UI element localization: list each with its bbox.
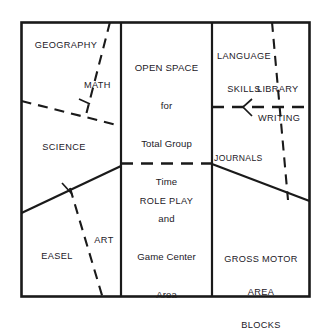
zone-label-art: ART	[88, 235, 120, 246]
open-space-line-2: for	[121, 100, 212, 113]
zone-label-geography: GEOGRAPHY	[23, 40, 109, 51]
zone-label-science: SCIENCE	[24, 142, 104, 153]
open-space-line-7: Area	[121, 289, 212, 302]
zone-label-math: MATH	[84, 80, 122, 91]
zone-label-writing: WRITING	[258, 113, 310, 124]
zone-label-library: LIBRARY	[257, 84, 309, 95]
gross-motor-line-1: GROSS MOTOR	[212, 254, 310, 265]
zone-label-open-space: OPEN SPACE for Total Group Time and Game…	[121, 37, 212, 327]
open-space-line-5: and	[121, 213, 212, 226]
gross-motor-line-2: AREA	[212, 287, 310, 298]
open-space-line-1: OPEN SPACE	[121, 62, 212, 75]
zone-label-journals: JOURNALS	[214, 153, 270, 164]
zone-label-role-play: ROLE PLAY	[121, 196, 212, 207]
open-space-line-4: Time	[121, 176, 212, 189]
open-space-line-3: Total Group	[121, 138, 212, 151]
zone-label-gross-motor: GROSS MOTOR AREA BLOCKS	[212, 232, 310, 332]
zone-label-easel: EASEL	[29, 251, 85, 262]
open-space-line-6: Game Center	[121, 251, 212, 264]
gross-motor-line-3: BLOCKS	[212, 320, 310, 331]
zone-label-language-skills: LANGUAGE SKILLS	[214, 29, 274, 117]
language-skills-line-1: LANGUAGE	[214, 51, 274, 62]
